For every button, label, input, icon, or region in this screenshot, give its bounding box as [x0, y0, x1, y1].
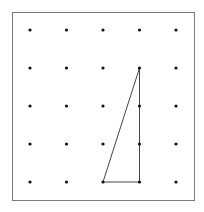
grid-dot: [28, 66, 31, 69]
grid-dot: [101, 180, 104, 183]
grid-dot: [65, 28, 68, 31]
grid-dot: [174, 180, 177, 183]
grid-dot: [138, 104, 141, 107]
grid-dot: [65, 104, 68, 107]
grid-dot: [101, 66, 104, 69]
grid-dot: [65, 66, 68, 69]
grid-dot: [174, 142, 177, 145]
grid-dot: [101, 104, 104, 107]
grid-dot: [138, 28, 141, 31]
grid-dot: [101, 142, 104, 145]
grid-dot: [65, 142, 68, 145]
grid-dot: [174, 28, 177, 31]
grid-dot: [65, 180, 68, 183]
grid-dot: [28, 28, 31, 31]
grid-dot: [28, 104, 31, 107]
grid-dot: [174, 66, 177, 69]
grid-dot: [138, 142, 141, 145]
grid-dot: [138, 66, 141, 69]
grid-dot: [28, 142, 31, 145]
grid-dot: [101, 28, 104, 31]
geoboard: [0, 0, 204, 212]
grid-dot: [28, 180, 31, 183]
grid-dot: [174, 104, 177, 107]
grid-dot: [138, 180, 141, 183]
